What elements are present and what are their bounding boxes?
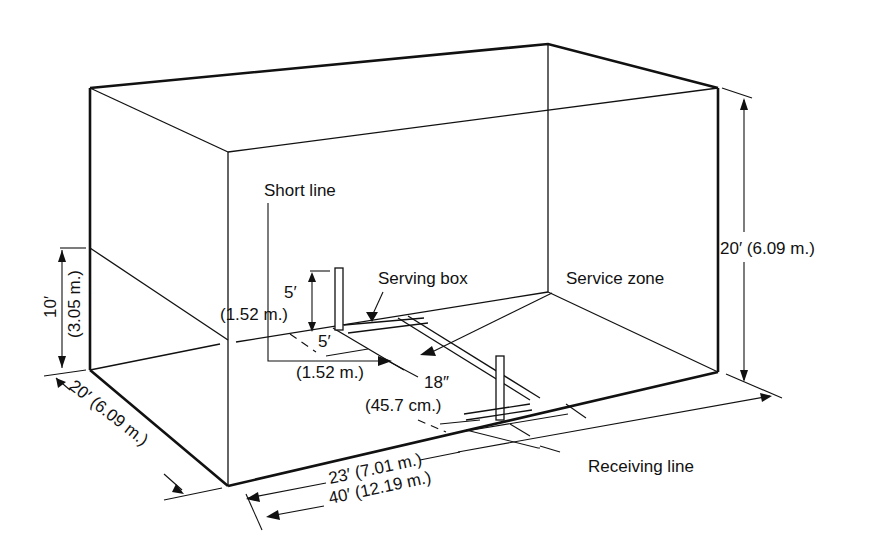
height-total-label: 20′ (6.09 m.)	[720, 239, 815, 258]
zone-depth-extension	[418, 420, 446, 432]
arrowhead-icon	[58, 356, 66, 368]
arrowhead-icon	[172, 484, 184, 494]
service-zone-label: Service zone	[566, 269, 664, 288]
floor-back-edge-left	[90, 344, 220, 370]
floor-left-edge	[90, 370, 228, 486]
arrowhead-icon	[308, 272, 316, 282]
back-height-ft-label: 10′	[41, 296, 60, 318]
racquetball-court-diagram: Short line Serving box Service zone 20′ …	[0, 0, 880, 554]
arrowhead-icon	[760, 393, 772, 402]
short-line-post	[335, 268, 343, 330]
service-line-1	[398, 318, 530, 400]
arrowhead-icon	[266, 510, 280, 520]
receiving-line-label: Receiving line	[588, 457, 694, 476]
arrowhead-icon	[58, 250, 66, 262]
box-height-ft-label: 5′	[284, 283, 297, 302]
width-tick-right	[164, 488, 222, 500]
ceiling-left-edge	[90, 88, 228, 152]
receiving-distance-dim-right	[420, 452, 460, 460]
receiving-tick	[510, 424, 530, 436]
serving-box-label: Serving box	[378, 269, 468, 288]
box-width-ft-label: 5′	[318, 332, 331, 351]
length-tick-right	[726, 374, 782, 398]
receiving-dim-upper	[460, 414, 568, 432]
court-drawing: Short line Serving box Service zone 20′ …	[0, 0, 880, 554]
arrowhead-icon	[740, 98, 748, 110]
ceiling-front-edge	[228, 88, 718, 152]
short-line-label: Short line	[264, 181, 336, 200]
box-width-dim	[326, 349, 368, 356]
zone-depth-dim	[440, 420, 480, 424]
height-tick-top	[722, 88, 752, 98]
serving-box-lower	[348, 323, 428, 333]
arrowhead-icon	[246, 492, 260, 502]
box-height-m-label: (1.52 m.)	[220, 305, 288, 324]
receiving-line-leader-2	[540, 446, 560, 452]
zone-depth-cm-label: (45.7 cm.)	[365, 396, 442, 415]
service-zone-leader	[432, 293, 552, 352]
back-height-m-label: (3.05 m.)	[65, 270, 84, 338]
floor-right-edge	[548, 292, 718, 372]
ceiling-back-edge	[90, 44, 718, 88]
receiving-distance-dim-left	[248, 483, 326, 498]
arrowhead-icon	[378, 356, 392, 366]
back-wall-line	[90, 248, 228, 340]
box-width-m-label: (1.52 m.)	[296, 363, 364, 382]
zone-depth-in-label: 18″	[424, 373, 449, 392]
receiving-line-post	[496, 356, 504, 420]
width-tick-left	[44, 370, 86, 376]
width-dim-end	[164, 474, 182, 490]
box-width-extension	[290, 334, 316, 352]
arrowhead-icon	[420, 346, 436, 356]
zone-depth-leader	[388, 361, 418, 377]
